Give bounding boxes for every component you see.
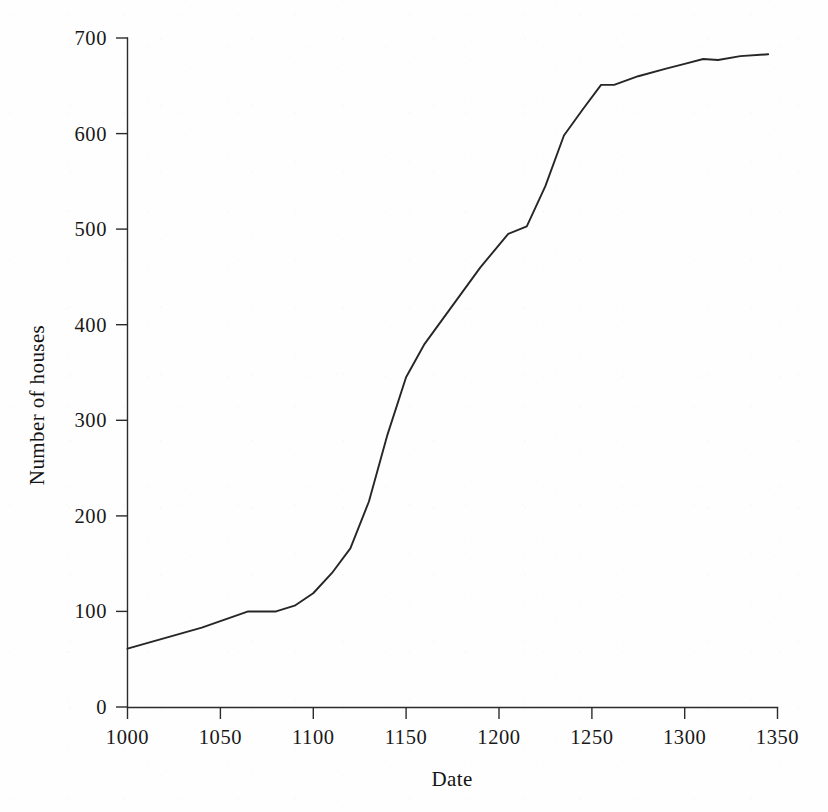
y-tick-label-100: 100 <box>74 600 107 622</box>
x-tick-label-1000: 1000 <box>106 726 149 748</box>
y-tick-label-200: 200 <box>74 505 107 527</box>
x-tick-label-1350: 1350 <box>756 726 799 748</box>
y-axis-title: Number of houses <box>25 325 49 485</box>
y-tick-label-0: 0 <box>96 696 107 718</box>
y-axis-ticks <box>116 38 128 707</box>
x-tick-label-1050: 1050 <box>199 726 242 748</box>
y-tick-label-600: 600 <box>74 123 107 145</box>
x-tick-label-1250: 1250 <box>570 726 613 748</box>
x-axis-title: Date <box>431 767 472 791</box>
x-tick-label-1100: 1100 <box>292 726 335 748</box>
x-tick-label-1200: 1200 <box>477 726 520 748</box>
y-tick-label-300: 300 <box>74 409 107 431</box>
x-tick-label-1150: 1150 <box>385 726 428 748</box>
line-chart: 0 100 200 300 400 500 600 700 1000 1050 … <box>0 0 828 812</box>
x-axis-ticks <box>128 708 778 720</box>
x-tick-label-1300: 1300 <box>663 726 706 748</box>
data-series-line <box>128 54 769 648</box>
figure-container: 0 100 200 300 400 500 600 700 1000 1050 … <box>0 0 828 812</box>
y-tick-label-500: 500 <box>74 218 107 240</box>
y-tick-label-700: 700 <box>74 27 107 49</box>
y-tick-label-400: 400 <box>74 314 107 336</box>
